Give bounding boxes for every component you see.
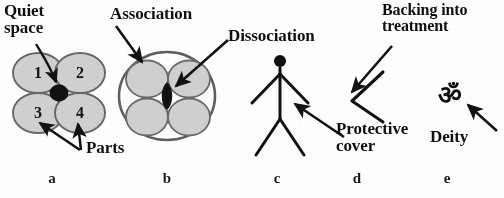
protective-cover-label: Protective cover: [336, 120, 408, 155]
stick-figure-leg-left: [256, 119, 280, 155]
quiet-space-label: Quiet space: [4, 2, 44, 37]
panel-letter-a: a: [40, 170, 64, 187]
part-circle-1-number: 1: [28, 64, 48, 82]
assoc-circle-bottom-left: [126, 99, 168, 136]
backing-into-treatment-label: Backing into treatment: [382, 2, 468, 35]
association-arrow: [116, 26, 142, 62]
stick-figure-head: [274, 55, 286, 67]
deity-arrow: [468, 105, 497, 131]
figure-canvas: 1 2 3 4 Quiet space Parts Association Di…: [0, 0, 504, 198]
stick-figure-leg-right: [280, 119, 304, 155]
panel-letter-d: d: [345, 170, 369, 187]
assoc-circle-bottom-right: [168, 99, 210, 136]
panel-letter-b: b: [155, 170, 179, 187]
chevron-shape: [352, 72, 383, 122]
stick-figure-arm-left: [252, 74, 280, 103]
parts-label: Parts: [86, 139, 124, 156]
panel-d-protective-chevron: [352, 72, 383, 122]
assoc-circle-top-left: [126, 61, 168, 98]
part-circle-2-number: 2: [70, 64, 90, 82]
backing-into-treatment-arrow: [352, 46, 392, 92]
assoc-circle-top-right: [168, 61, 210, 98]
panel-a-parts-cluster: [13, 53, 105, 133]
om-symbol-icon: ॐ: [438, 82, 462, 108]
dissociation-label: Dissociation: [228, 27, 315, 44]
part-circle-3-number: 3: [28, 104, 48, 122]
quiet-space-core: [50, 85, 69, 102]
association-label: Association: [110, 5, 192, 22]
panel-letter-e: e: [435, 170, 459, 187]
part-circle-4-number: 4: [70, 104, 90, 122]
deity-label: Deity: [430, 128, 468, 145]
panel-c-stick-figure: [252, 55, 308, 155]
panel-letter-c: c: [265, 170, 289, 187]
stick-figure-arm-right: [280, 74, 308, 103]
